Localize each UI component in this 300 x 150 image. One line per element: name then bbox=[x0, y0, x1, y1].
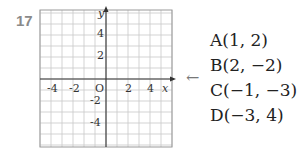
x-tick: 4 bbox=[147, 82, 154, 95]
x-tick: -4 bbox=[47, 82, 58, 95]
answer-list: A(1, 2) B(2, −2) C(−1, −3) D(−3, 4) bbox=[210, 28, 297, 128]
y-tick: 2 bbox=[97, 49, 104, 62]
answer-a: A(1, 2) bbox=[210, 28, 297, 53]
answer-d: D(−3, 4) bbox=[210, 103, 297, 128]
y-tick: 4 bbox=[97, 27, 104, 40]
y-tick: -4 bbox=[90, 116, 101, 129]
x-label: x bbox=[162, 82, 169, 95]
y-label: y bbox=[97, 7, 105, 20]
answer-b: B(2, −2) bbox=[210, 53, 297, 78]
left-arrow-icon: ← bbox=[186, 68, 199, 87]
x-tick: -2 bbox=[69, 82, 80, 95]
x-tick: 2 bbox=[125, 82, 132, 95]
y-axis-arrow-icon bbox=[104, 6, 109, 12]
answer-c: C(−1, −3) bbox=[210, 78, 297, 103]
y-tick: -2 bbox=[90, 94, 101, 107]
x-axis-arrow-icon bbox=[170, 77, 176, 82]
